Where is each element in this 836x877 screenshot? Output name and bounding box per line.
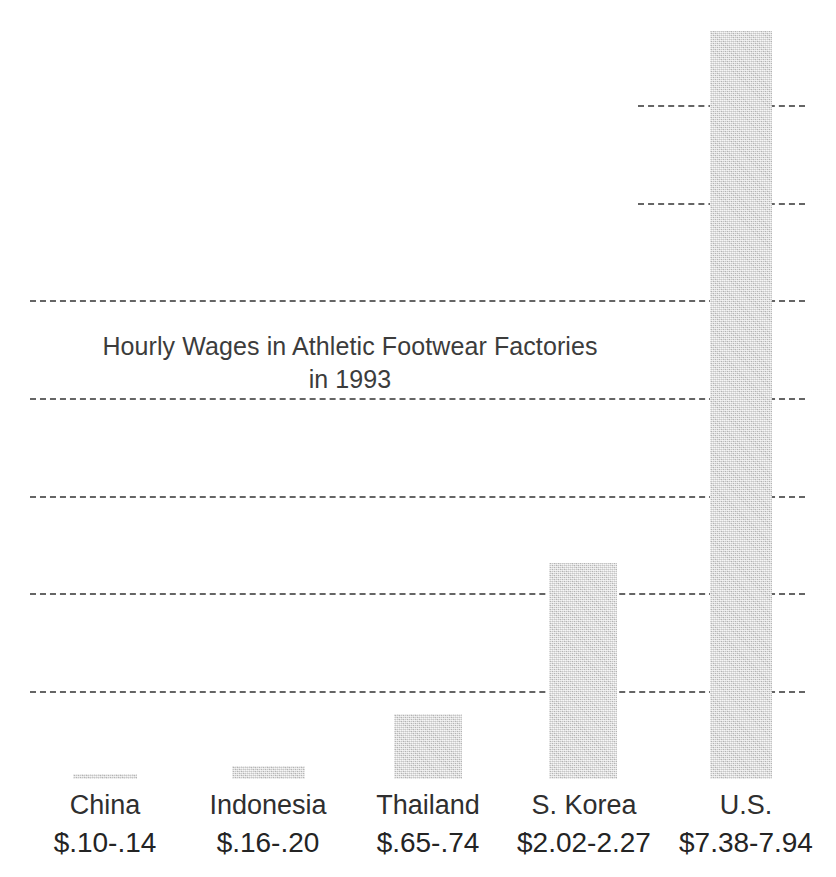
x-axis-labels: China $.10-.14 Indonesia $.16-.20 Thaila… <box>0 786 836 877</box>
x-label-value-china: $.10-.14 <box>25 824 185 862</box>
gridline-5 <box>30 300 805 302</box>
x-label-name-china: China <box>25 786 185 824</box>
gridline-2 <box>30 593 805 595</box>
x-label-group-china: China $.10-.14 <box>25 786 185 862</box>
x-label-value-thailand: $.65-.74 <box>348 824 508 862</box>
gridline-4 <box>30 398 805 400</box>
x-label-name-s-korea: S. Korea <box>498 786 670 824</box>
x-label-group-us: U.S. $7.38-7.94 <box>658 786 834 862</box>
x-label-name-indonesia: Indonesia <box>188 786 348 824</box>
chart-title: Hourly Wages in Athletic Footwear Factor… <box>0 330 700 396</box>
chart-container: Hourly Wages in Athletic Footwear Factor… <box>0 0 836 877</box>
bar-thailand <box>394 714 462 779</box>
x-label-name-thailand: Thailand <box>348 786 508 824</box>
x-label-group-indonesia: Indonesia $.16-.20 <box>188 786 348 862</box>
x-label-value-indonesia: $.16-.20 <box>188 824 348 862</box>
x-label-value-us: $7.38-7.94 <box>658 824 834 862</box>
x-label-value-s-korea: $2.02-2.27 <box>498 824 670 862</box>
gridline-3 <box>30 496 805 498</box>
bar-indonesia <box>232 766 305 779</box>
bar-china <box>73 774 137 779</box>
chart-title-line-1: Hourly Wages in Athletic Footwear Factor… <box>0 330 700 363</box>
chart-title-line-2: in 1993 <box>0 363 700 396</box>
x-label-group-thailand: Thailand $.65-.74 <box>348 786 508 862</box>
gridline-1 <box>30 691 805 693</box>
x-label-name-us: U.S. <box>658 786 834 824</box>
plot-area: Hourly Wages in Athletic Footwear Factor… <box>0 0 836 779</box>
bar-us <box>710 31 772 779</box>
bar-s-korea <box>549 563 617 779</box>
x-label-group-s-korea: S. Korea $2.02-2.27 <box>498 786 670 862</box>
